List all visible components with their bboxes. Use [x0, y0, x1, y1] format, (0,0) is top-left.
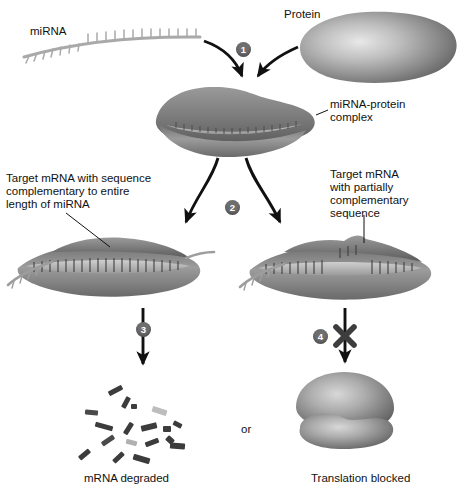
mrna-fragment: [151, 406, 167, 416]
mrna-fragment: [170, 442, 185, 449]
mrna-fragment: [163, 426, 171, 432]
mrna-fragment: [85, 409, 98, 415]
mrna-fragment: [145, 438, 160, 447]
figure-canvas: miRNA Protein miRNA-protein complex Targ…: [0, 0, 465, 493]
mrna-fragment: [141, 422, 158, 432]
mrna-fragments: [0, 0, 465, 493]
mrna-fragment: [108, 385, 124, 396]
mrna-fragment: [172, 420, 182, 429]
mrna-fragment: [123, 422, 134, 436]
mrna-fragment: [101, 435, 115, 447]
mrna-fragment: [121, 396, 131, 409]
mrna-fragment: [95, 422, 114, 432]
mrna-fragment: [112, 451, 125, 464]
mrna-fragment: [131, 404, 137, 409]
mrna-fragment: [133, 454, 151, 464]
mrna-fragment: [78, 448, 91, 460]
mrna-fragment: [126, 439, 138, 447]
